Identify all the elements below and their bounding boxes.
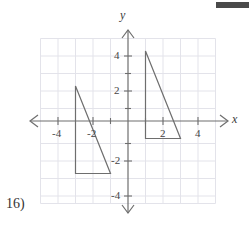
coordinate-plane — [0, 0, 252, 226]
x-axis-label: x — [232, 112, 237, 127]
x-tick-label-neg2: -2 — [87, 127, 96, 139]
worksheet-page: y x -4 -2 2 4 4 2 -2 -4 16) — [0, 0, 252, 226]
y-tick-label-neg4: -4 — [111, 189, 120, 201]
y-axis-label: y — [120, 8, 125, 23]
y-tick-label-2: 2 — [114, 84, 120, 96]
x-tick-label-2: 2 — [160, 127, 166, 139]
y-tick-label-neg2: -2 — [111, 154, 120, 166]
y-tick-label-4: 4 — [114, 49, 120, 61]
x-tick-label-4: 4 — [195, 127, 201, 139]
problem-number: 16) — [6, 196, 25, 212]
x-tick-label-neg4: -4 — [52, 127, 61, 139]
